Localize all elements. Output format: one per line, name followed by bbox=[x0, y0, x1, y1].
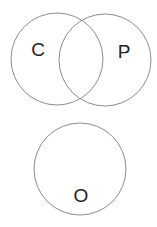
label-c: C bbox=[31, 39, 45, 60]
label-p: P bbox=[118, 41, 131, 62]
circle-p bbox=[59, 14, 151, 106]
circle-c bbox=[11, 13, 103, 105]
venn-diagram: C P O bbox=[0, 0, 157, 227]
label-o: O bbox=[74, 185, 89, 206]
